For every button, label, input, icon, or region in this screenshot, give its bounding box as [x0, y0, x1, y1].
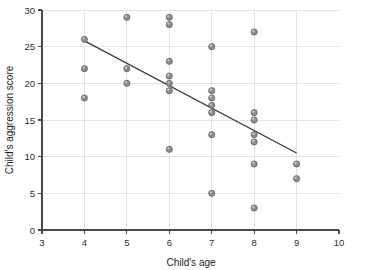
data-point — [81, 66, 87, 72]
data-point — [166, 58, 172, 64]
x-tick-label: 4 — [82, 237, 87, 248]
data-point — [251, 110, 257, 116]
data-point — [293, 161, 299, 167]
data-point — [124, 14, 130, 20]
x-tick-label: 8 — [251, 237, 256, 248]
y-tick-label: 10 — [24, 151, 35, 162]
x-tick-label: 7 — [209, 237, 214, 248]
y-tick-label: 0 — [30, 225, 35, 236]
data-point — [209, 132, 215, 138]
data-point — [124, 66, 130, 72]
data-point — [209, 95, 215, 101]
data-point — [251, 132, 257, 138]
data-point — [166, 22, 172, 28]
data-point — [251, 117, 257, 123]
x-tick-label: 6 — [167, 237, 172, 248]
data-point — [209, 44, 215, 50]
data-point — [209, 88, 215, 94]
scatter-chart: 051015202530345678910 Child's age Child'… — [0, 0, 368, 270]
data-point — [251, 29, 257, 35]
data-points — [81, 14, 299, 211]
data-point — [293, 176, 299, 182]
data-point — [251, 161, 257, 167]
x-tick-label: 10 — [334, 237, 345, 248]
regression-line — [84, 41, 296, 153]
data-point — [166, 80, 172, 86]
data-point — [166, 73, 172, 79]
y-axis-title: Child's aggression score — [4, 65, 15, 174]
y-tick-label: 30 — [24, 5, 35, 16]
data-point — [209, 110, 215, 116]
data-point — [251, 139, 257, 145]
data-point — [124, 80, 130, 86]
data-point — [166, 146, 172, 152]
y-tick-label: 15 — [24, 115, 35, 126]
chart-canvas: 051015202530345678910 Child's age Child'… — [0, 0, 368, 270]
y-tick-label: 5 — [30, 188, 35, 199]
data-point — [166, 88, 172, 94]
y-tick-label: 20 — [24, 78, 35, 89]
data-point — [251, 205, 257, 211]
x-tick-label: 9 — [294, 237, 299, 248]
gridlines — [42, 10, 339, 230]
y-tick-label: 25 — [24, 41, 35, 52]
x-tick-label: 5 — [124, 237, 129, 248]
data-point — [209, 102, 215, 108]
data-point — [209, 190, 215, 196]
x-axis-title: Child's age — [166, 257, 216, 268]
tick-marks — [38, 10, 339, 234]
x-tick-label: 3 — [39, 237, 44, 248]
data-point — [166, 14, 172, 20]
data-point — [81, 95, 87, 101]
data-point — [81, 36, 87, 42]
